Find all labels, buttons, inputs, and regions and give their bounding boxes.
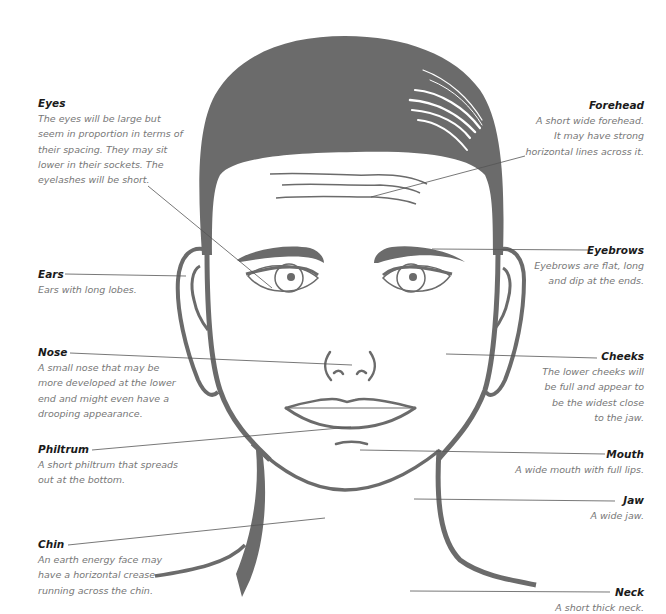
label-philtrum-desc: A short philtrum that spreads out at the… xyxy=(38,457,178,488)
label-forehead-desc: A short wide forehead. It may have stron… xyxy=(525,113,644,159)
label-eyes-title: Eyes xyxy=(38,96,183,111)
label-jaw-title: Jaw xyxy=(591,493,644,508)
label-neck: Neck A short thick neck. xyxy=(555,585,644,614)
neck-left xyxy=(236,450,265,597)
hair xyxy=(199,36,503,255)
label-eyebrows-desc: Eyebrows are flat, long and dip at the e… xyxy=(534,258,644,289)
label-neck-desc: A short thick neck. xyxy=(555,600,644,614)
eye-right xyxy=(383,264,452,292)
ear-right xyxy=(486,249,524,395)
label-nose-desc: A small nose that may be more developed … xyxy=(38,360,176,421)
label-cheeks-title: Cheeks xyxy=(542,349,644,364)
shoulder-left xyxy=(155,545,245,576)
label-nose-title: Nose xyxy=(38,345,176,360)
label-ears-desc: Ears with long lobes. xyxy=(38,282,137,297)
label-cheeks-desc: The lower cheeks will be full and appear… xyxy=(542,364,644,425)
label-forehead: Forehead A short wide forehead. It may h… xyxy=(525,98,644,159)
eye-left xyxy=(246,264,318,292)
label-chin-title: Chin xyxy=(38,537,162,552)
label-forehead-title: Forehead xyxy=(525,98,644,113)
label-jaw-desc: A wide jaw. xyxy=(591,508,644,523)
label-eyes-desc: The eyes will be large but seem in propo… xyxy=(38,111,183,187)
label-chin: Chin An earth energy face may have a hor… xyxy=(38,537,162,598)
label-philtrum-title: Philtrum xyxy=(38,442,178,457)
label-ears-title: Ears xyxy=(38,267,137,282)
label-ears: Ears Ears with long lobes. xyxy=(38,267,137,297)
label-mouth: Mouth A wide mouth with full lips. xyxy=(515,447,644,477)
label-eyebrows: Eyebrows Eyebrows are flat, long and dip… xyxy=(534,243,644,289)
label-cheeks: Cheeks The lower cheeks will be full and… xyxy=(542,349,644,425)
ear-left xyxy=(178,249,218,395)
mouth xyxy=(286,399,415,444)
label-nose: Nose A small nose that may be more devel… xyxy=(38,345,176,421)
label-neck-title: Neck xyxy=(555,585,644,600)
face-outline-left xyxy=(207,250,270,460)
label-mouth-title: Mouth xyxy=(515,447,644,462)
face-illustration xyxy=(0,0,666,614)
nose xyxy=(325,352,375,380)
label-mouth-desc: A wide mouth with full lips. xyxy=(515,462,644,477)
label-eyes: Eyes The eyes will be large but seem in … xyxy=(38,96,183,187)
label-jaw: Jaw A wide jaw. xyxy=(591,493,644,523)
label-chin-desc: An earth energy face may have a horizont… xyxy=(38,552,162,598)
label-eyebrows-title: Eyebrows xyxy=(534,243,644,258)
label-philtrum: Philtrum A short philtrum that spreads o… xyxy=(38,442,178,488)
eyebrow-left xyxy=(237,247,324,264)
